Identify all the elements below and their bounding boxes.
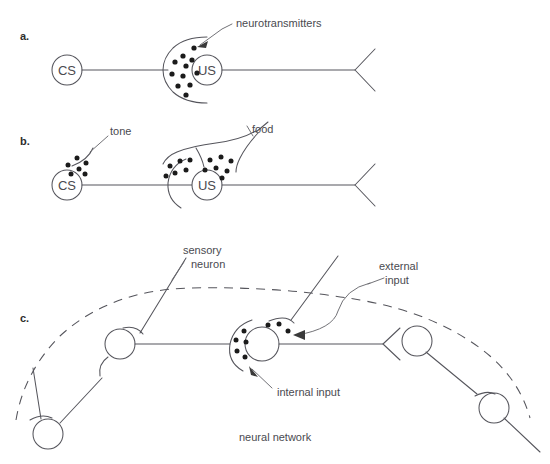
panel-c-external-input-arrow-curve (297, 283, 370, 335)
panel-c-external-input-terminal (269, 318, 294, 323)
panel-c-internal-input-arrowhead (249, 366, 258, 377)
panel-b: b. CS tone US (20, 122, 375, 208)
panel-a-neurotransmitters-arrowhead (197, 41, 208, 48)
panel-c-internal-input-vesicles (234, 329, 249, 360)
panel-c: c. sensory neuron (16, 244, 540, 452)
panel-a-annotation-neurotransmitters: neurotransmitters (236, 17, 322, 29)
panel-c-external-input-arrowhead (293, 330, 305, 340)
panel-c-sensory-neuron-soma (105, 329, 135, 359)
panel-c-lower-left-neuron-soma (33, 419, 63, 449)
panel-b-tone-leader (90, 136, 108, 152)
panel-a-letter: a. (20, 30, 29, 42)
panel-b-annotation-tone: tone (110, 125, 131, 137)
panel-b-us-label: US (198, 178, 216, 193)
panel-b-food-terminal-left-arc (196, 148, 204, 167)
panel-a: a. CS US (20, 17, 375, 103)
panel-b-food-vesicles-left (164, 158, 193, 179)
panel-c-external-input-axon (291, 256, 338, 320)
panel-c-sensory-neuron-leader (172, 262, 184, 280)
panel-a-vesicles (169, 45, 199, 97)
panel-a-neurotransmitters-leader (200, 24, 232, 45)
figure-root: a. CS US (0, 0, 550, 464)
panel-a-us-label: US (198, 63, 216, 78)
panel-c-external-input-leader (368, 278, 384, 284)
panel-c-letter: c. (20, 312, 29, 324)
panel-c-lower-left-neuron-dendrite (33, 368, 41, 419)
panel-b-annotation-food: food (252, 123, 273, 135)
panel-c-interneuron-axon-fork (383, 328, 400, 360)
panel-c-annotation-sensory-neuron-line1: sensory (183, 244, 222, 256)
panel-c-output-to-lower-right-axon (426, 352, 477, 394)
panel-a-axon-terminal-fork (355, 49, 375, 91)
neuroscience-diagram: a. CS US (0, 0, 550, 464)
panel-b-letter: b. (20, 135, 30, 147)
panel-c-interneuron-soma (245, 327, 279, 361)
panel-c-annotation-internal-input: internal input (277, 386, 340, 398)
panel-c-annotation-sensory-neuron-line2: neuron (191, 258, 225, 270)
panel-c-lower-right-neuron-axon (504, 418, 540, 452)
panel-b-cs-label: CS (58, 178, 76, 193)
panel-c-output-neuron-soma (402, 326, 432, 356)
panel-b-food-branch-right (236, 133, 258, 172)
panel-c-annotation-external-input-line1: external (379, 260, 418, 272)
panel-b-axon-terminal-fork (355, 164, 375, 206)
panel-a-cs-label: CS (58, 63, 76, 78)
panel-c-lower-left-to-sensory-axon (60, 378, 102, 423)
panel-c-annotation-external-input-line2: input (385, 274, 409, 286)
panel-c-sensory-neuron-lower-arc (100, 357, 108, 376)
panel-c-caption: neural network (239, 431, 312, 443)
panel-c-internal-input-leader (252, 369, 272, 388)
